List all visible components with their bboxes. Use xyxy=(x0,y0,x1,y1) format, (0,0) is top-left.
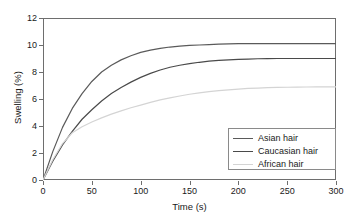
y-tick-label: 12 xyxy=(7,14,37,23)
x-tick-label: 300 xyxy=(316,187,349,196)
x-tick-label: 200 xyxy=(218,187,258,196)
y-tick xyxy=(39,18,43,19)
legend-line-swatch xyxy=(233,164,253,165)
y-tick xyxy=(39,45,43,46)
x-tick xyxy=(141,181,142,185)
legend-label: Asian hair xyxy=(258,134,298,143)
x-tick xyxy=(190,181,191,185)
y-tick-label: 0 xyxy=(7,176,37,185)
legend-item[interactable]: African hair xyxy=(233,158,331,170)
y-tick-label: 8 xyxy=(7,68,37,77)
x-tick-label: 150 xyxy=(170,187,210,196)
y-tick xyxy=(39,99,43,100)
x-tick-label: 50 xyxy=(72,187,112,196)
y-tick-label: 10 xyxy=(7,41,37,50)
legend-label: Caucasian hair xyxy=(258,147,318,156)
x-tick-label: 250 xyxy=(267,187,307,196)
x-tick xyxy=(336,181,337,185)
y-tick xyxy=(39,72,43,73)
x-tick xyxy=(92,181,93,185)
x-tick-label: 0 xyxy=(23,187,63,196)
legend-item[interactable]: Caucasian hair xyxy=(233,145,331,157)
legend-label: African hair xyxy=(258,160,304,169)
y-tick xyxy=(39,153,43,154)
x-tick xyxy=(238,181,239,185)
y-tick-label: 2 xyxy=(7,149,37,158)
legend-item[interactable]: Asian hair xyxy=(233,132,331,144)
x-axis-title: Time (s) xyxy=(43,201,336,212)
x-tick-label: 100 xyxy=(121,187,161,196)
chart-container: Time (s) Swelling (%) Asian hairCaucasia… xyxy=(0,0,349,220)
y-tick-label: 6 xyxy=(7,95,37,104)
legend: Asian hairCaucasian hairAfrican hair xyxy=(228,128,336,170)
legend-line-swatch xyxy=(233,151,253,152)
legend-line-swatch xyxy=(233,138,253,139)
x-tick xyxy=(43,181,44,185)
y-tick-label: 4 xyxy=(7,122,37,131)
x-tick xyxy=(287,181,288,185)
y-tick xyxy=(39,126,43,127)
